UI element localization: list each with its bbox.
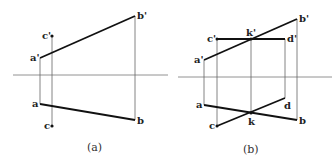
label-a-prime: a' xyxy=(194,54,204,65)
label-c: c xyxy=(209,120,215,131)
label-k: k xyxy=(248,116,256,127)
label-b-prime: b' xyxy=(137,10,147,21)
label-a-prime: a' xyxy=(30,52,40,63)
projection-diagrams: a' b' c' a b c (a) a' b' c' k' d' a d k xyxy=(0,0,336,167)
figure-b: a' b' c' k' d' a d k b c (b) xyxy=(178,13,332,156)
label-b: b xyxy=(137,115,144,126)
label-a: a xyxy=(32,98,39,109)
point-c xyxy=(216,125,219,128)
point-k xyxy=(250,112,253,115)
line-ab-top xyxy=(40,104,135,120)
caption-a: (a) xyxy=(87,141,102,154)
label-b: b xyxy=(299,115,306,126)
figure-a: a' b' c' a b c (a) xyxy=(13,10,168,154)
label-a: a xyxy=(196,99,203,110)
caption-b: (b) xyxy=(243,143,259,156)
label-d-prime: d' xyxy=(287,33,297,44)
label-c: c xyxy=(44,120,50,131)
label-d: d xyxy=(284,100,291,111)
label-b-prime: b' xyxy=(299,13,309,24)
label-c-prime: c' xyxy=(207,33,216,44)
line-ab-front xyxy=(40,16,135,58)
label-c-prime: c' xyxy=(42,30,51,41)
point-c xyxy=(50,124,53,127)
label-k-prime: k' xyxy=(246,27,256,38)
